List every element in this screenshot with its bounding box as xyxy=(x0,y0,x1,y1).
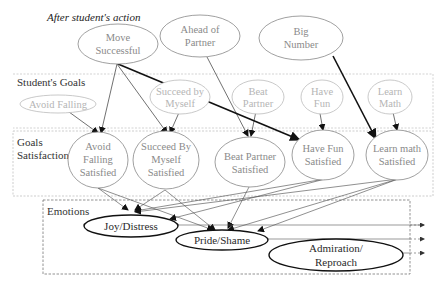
action-node-move: Move Successful xyxy=(78,24,158,64)
svg-text:Number: Number xyxy=(284,39,319,50)
svg-text:Beat: Beat xyxy=(248,86,267,97)
svg-text:Succeed by: Succeed by xyxy=(156,86,205,97)
satisfaction-label-line2: Satisfaction xyxy=(17,149,69,161)
svg-text:Fun: Fun xyxy=(314,98,331,109)
svg-text:Admiration/: Admiration/ xyxy=(309,242,364,254)
goal-node-avoid-falling: Avoid Falling xyxy=(20,95,96,113)
svg-text:Math: Math xyxy=(379,98,402,109)
svg-text:Myself: Myself xyxy=(151,154,181,165)
svg-text:Reproach: Reproach xyxy=(315,256,358,268)
svg-text:Partner: Partner xyxy=(243,98,274,109)
satisfaction-node-avoid: Avoid Falling Satisfied xyxy=(68,132,128,188)
svg-text:Successful: Successful xyxy=(96,45,141,56)
svg-text:Learn math: Learn math xyxy=(373,143,422,154)
satisfaction-node-learn-math: Learn math Satisfied xyxy=(366,130,428,180)
svg-text:Satisfied: Satisfied xyxy=(232,164,269,175)
emotion-node-pride-shame: Pride/Shame xyxy=(176,230,268,250)
svg-text:Big: Big xyxy=(293,26,309,37)
svg-text:Avoid Falling: Avoid Falling xyxy=(29,99,88,110)
goals-section-label: Student's Goals xyxy=(17,76,85,88)
svg-text:Joy/Distress: Joy/Distress xyxy=(104,220,158,232)
svg-text:Beat Partner: Beat Partner xyxy=(224,151,277,162)
goal-node-have-fun: Have Fun xyxy=(301,80,343,114)
svg-text:Learn: Learn xyxy=(378,86,403,97)
goal-node-beat-partner: Beat Partner xyxy=(232,80,284,114)
svg-text:Have: Have xyxy=(311,86,333,97)
goal-node-learn-math: Learn Math xyxy=(368,80,412,114)
emotion-node-joy-distress: Joy/Distress xyxy=(84,215,178,237)
satisfaction-node-beat: Beat Partner Satisfied xyxy=(215,137,285,187)
svg-text:Satisfied: Satisfied xyxy=(379,156,416,167)
diagram-title: After student's action xyxy=(46,11,141,23)
svg-text:Myself: Myself xyxy=(165,98,195,109)
svg-text:Falling: Falling xyxy=(83,154,114,165)
satisfaction-node-succeed: Succeed By Myself Satisfied xyxy=(133,131,199,189)
svg-text:Have Fun: Have Fun xyxy=(302,143,344,154)
diagram-canvas: After student's action Student's Goals G… xyxy=(0,0,446,291)
edge-avoid-joy xyxy=(98,188,128,210)
svg-text:Satisfied: Satisfied xyxy=(305,156,342,167)
svg-text:Ahead of: Ahead of xyxy=(181,24,220,35)
svg-text:Partner: Partner xyxy=(185,37,216,48)
goal-node-succeed: Succeed by Myself xyxy=(150,80,210,114)
action-node-big-number: Big Number xyxy=(259,16,343,60)
svg-text:Avoid: Avoid xyxy=(85,141,111,152)
svg-text:Move: Move xyxy=(106,32,131,43)
action-node-ahead: Ahead of Partner xyxy=(160,15,240,57)
emotions-section-label: Emotions xyxy=(47,205,89,217)
svg-text:Succeed By: Succeed By xyxy=(141,141,192,152)
satisfaction-label-line1: Goals xyxy=(17,136,43,148)
satisfaction-node-have-fun: Have Fun Satisfied xyxy=(292,130,354,180)
emotion-node-admiration-reproach: Admiration/ Reproach xyxy=(269,239,403,271)
edge-beat-pride xyxy=(228,187,249,228)
svg-text:Satisfied: Satisfied xyxy=(80,167,117,178)
svg-text:Pride/Shame: Pride/Shame xyxy=(194,234,250,246)
svg-text:Satisfied: Satisfied xyxy=(148,167,185,178)
